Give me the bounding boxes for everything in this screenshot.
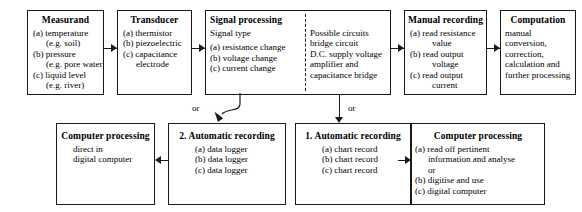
list-item: voltage bbox=[410, 59, 483, 69]
list-item: bridge circuit bbox=[310, 38, 387, 48]
list-item: (b) pressure bbox=[33, 49, 100, 59]
signal-processing-left-pane: Signal processing Signal type (a) resist… bbox=[206, 11, 305, 94]
box-manual-recording-title: Manual recording bbox=[405, 15, 486, 26]
list-item: further processing bbox=[505, 70, 572, 80]
list-item: amplifier and bbox=[310, 59, 387, 69]
box-transducer-lines: (a) thermistor (b) piezoelectric (c) cap… bbox=[118, 28, 191, 70]
box-transducer-title: Transducer bbox=[118, 15, 191, 26]
list-item: (b) piezoelectric bbox=[123, 38, 188, 48]
box-automatic-recording-2-lines: (a) data logger (b) data logger (c) data… bbox=[169, 144, 285, 175]
box-computer-processing-left-title: Computer processing bbox=[57, 131, 154, 142]
list-item: information and analyse bbox=[415, 154, 541, 164]
list-item: direct in bbox=[73, 144, 151, 154]
list-item: (c) capacitance bbox=[123, 49, 188, 59]
signal-processing-right-pane: Possible circuits bridge circuit D.C. su… bbox=[306, 11, 390, 94]
arrow-automatic-recording-1-to-computer-processing bbox=[398, 156, 411, 165]
list-item: correction, bbox=[505, 49, 572, 59]
box-measurand-title: Measurand bbox=[28, 15, 103, 26]
list-item: (b) data logger bbox=[195, 154, 282, 164]
box-computation-title: Computation bbox=[501, 15, 575, 26]
list-item: (e.g. river) bbox=[33, 80, 100, 90]
list-item: D.C. supply voltage bbox=[310, 49, 387, 59]
list-item: calculation and bbox=[505, 59, 572, 69]
box-computer-processing-right-title: Computer processing bbox=[412, 131, 544, 142]
box-manual-recording-lines: (a) read resistance value (b) read outpu… bbox=[405, 28, 486, 90]
arrow-manual-recording-to-computation bbox=[487, 44, 500, 53]
curved-connector-to-automatic-recording-2 bbox=[200, 93, 260, 125]
list-item: (b) voltage change bbox=[210, 53, 302, 63]
list-item: or bbox=[415, 165, 541, 175]
box-measurand: Measurand (a) temperature (e.g. soil) (b… bbox=[27, 10, 104, 95]
signal-processing-subtitle: Signal type bbox=[210, 28, 302, 38]
arrow-automatic-recording-2-to-computer-processing bbox=[155, 156, 168, 165]
list-item: (e.g. soil) bbox=[33, 38, 100, 48]
list-item: digital computer bbox=[73, 154, 151, 164]
box-signal-processing-title: Signal processing bbox=[210, 15, 305, 26]
list-item: (a) resistance change bbox=[210, 42, 302, 52]
arrow-transducer-to-signal-processing bbox=[192, 44, 205, 53]
list-item: (c) current change bbox=[210, 63, 302, 73]
list-item: (c) data logger bbox=[195, 165, 282, 175]
list-item: (a) read off pertinent bbox=[415, 144, 541, 154]
signal-processing-subtitle-wrap: Signal type (a) resistance change (b) vo… bbox=[206, 28, 305, 74]
list-item: (a) chart record bbox=[322, 144, 407, 154]
box-signal-processing: Signal processing Signal type (a) resist… bbox=[205, 10, 391, 95]
box-automatic-recording-1-lines: (a) chart record (b) chart record (c) ch… bbox=[296, 144, 410, 175]
list-item: (a) read resistance bbox=[410, 28, 483, 38]
box-automatic-recording-2: 2. Automatic recording (a) data logger (… bbox=[168, 123, 286, 205]
arrow-signal-processing-to-manual-recording bbox=[391, 44, 404, 53]
list-item: capacitance bridge bbox=[310, 70, 387, 80]
box-transducer: Transducer (a) thermistor (b) piezoelect… bbox=[117, 10, 192, 95]
box-computer-processing-left: Computer processing direct in digital co… bbox=[56, 123, 155, 205]
or-label-right: or bbox=[348, 103, 356, 113]
list-item: electrode bbox=[123, 59, 188, 69]
list-item: manual bbox=[505, 28, 572, 38]
signal-processing-circuits: Possible circuits bridge circuit D.C. su… bbox=[306, 11, 390, 80]
list-item: (e.g. pore water) bbox=[33, 59, 100, 69]
or-label-left: or bbox=[192, 103, 200, 113]
box-manual-recording: Manual recording (a) read resistance val… bbox=[404, 10, 487, 95]
list-item: conversion, bbox=[505, 38, 572, 48]
list-item: (a) data logger bbox=[195, 144, 282, 154]
arrow-measurand-to-transducer bbox=[104, 44, 117, 53]
list-item: (a) temperature bbox=[33, 28, 100, 38]
box-computation: Computation manual conversion, correctio… bbox=[500, 10, 576, 95]
box-automatic-recording-1: 1. Automatic recording (a) chart record … bbox=[295, 123, 411, 205]
list-item: (c) chart record bbox=[322, 165, 407, 175]
box-computer-processing-left-lines: direct in digital computer bbox=[57, 144, 154, 165]
list-item: current bbox=[410, 80, 483, 90]
list-item: (b) digitise and use bbox=[415, 175, 541, 185]
list-item: (a) thermistor bbox=[123, 28, 188, 38]
box-computer-processing-right-lines: (a) read off pertinent information and a… bbox=[412, 144, 544, 196]
diagram-canvas: Measurand (a) temperature (e.g. soil) (b… bbox=[0, 0, 582, 212]
list-item: (b) chart record bbox=[322, 154, 407, 164]
list-item: (b) read output bbox=[410, 49, 483, 59]
box-computation-lines: manual conversion, correction, calculati… bbox=[501, 28, 575, 80]
box-automatic-recording-2-title: 2. Automatic recording bbox=[169, 131, 285, 142]
box-computer-processing-right: Computer processing (a) read off pertine… bbox=[411, 123, 545, 205]
signal-processing-circuits-title: Possible circuits bbox=[310, 28, 387, 38]
box-automatic-recording-1-title: 1. Automatic recording bbox=[296, 131, 410, 142]
list-item: (c) liquid level bbox=[33, 70, 100, 80]
list-item: value bbox=[410, 38, 483, 48]
list-item: (c) read output bbox=[410, 70, 483, 80]
list-item: (c) digital computer bbox=[415, 186, 541, 196]
box-measurand-lines: (a) temperature (e.g. soil) (b) pressure… bbox=[28, 28, 103, 90]
arrow-to-automatic-recording-1 bbox=[335, 95, 344, 123]
